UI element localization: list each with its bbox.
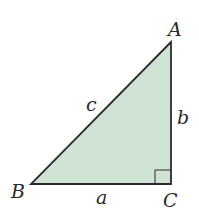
side-label-a: a <box>96 186 107 208</box>
vertex-label-c: C <box>163 189 178 211</box>
side-label-b: b <box>177 106 189 128</box>
triangle-shape <box>31 42 171 184</box>
vertex-label-a: A <box>166 18 182 40</box>
side-label-c: c <box>86 93 97 115</box>
right-triangle-diagram: A B C a b c <box>0 0 199 212</box>
vertex-label-b: B <box>10 180 25 202</box>
